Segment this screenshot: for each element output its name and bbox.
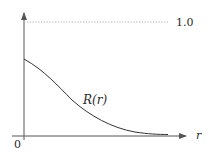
x-axis-label: r	[196, 129, 202, 142]
chart: 1.0 r 0 R(r)	[0, 0, 210, 155]
origin-label: 0	[14, 138, 21, 151]
reference-label: 1.0	[176, 16, 194, 29]
curve-label: R(r)	[82, 93, 107, 107]
